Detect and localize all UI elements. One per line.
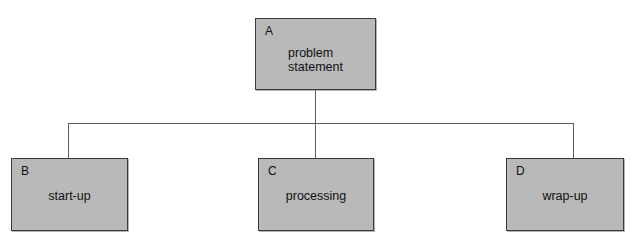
- connector-bus-to-b: [68, 123, 69, 159]
- diagram-canvas: A problem statement B start-up C process…: [0, 0, 633, 242]
- node-a-problem-statement[interactable]: A problem statement: [255, 18, 376, 90]
- node-c-label-line-1: processing: [259, 189, 373, 203]
- node-a-letter: A: [265, 24, 273, 38]
- node-c-label: processing: [259, 189, 373, 203]
- node-b-letter: B: [21, 164, 29, 178]
- node-d-label-line-1: wrap-up: [507, 189, 623, 203]
- node-a-label-line-1: problem: [288, 46, 343, 60]
- node-b-label-line-1: start-up: [12, 189, 127, 203]
- node-d-letter: D: [516, 164, 525, 178]
- node-a-label-line-2: statement: [288, 60, 343, 74]
- node-b-label: start-up: [12, 189, 127, 203]
- connector-bus-to-d: [573, 123, 574, 159]
- node-b-start-up[interactable]: B start-up: [11, 158, 128, 231]
- node-c-letter: C: [268, 164, 277, 178]
- connector-a-to-c-stem: [315, 90, 316, 159]
- node-d-label: wrap-up: [507, 189, 623, 203]
- node-d-wrap-up[interactable]: D wrap-up: [506, 158, 624, 231]
- node-a-label: problem statement: [256, 46, 375, 74]
- connector-horizontal-bus: [68, 123, 574, 124]
- node-c-processing[interactable]: C processing: [258, 158, 374, 231]
